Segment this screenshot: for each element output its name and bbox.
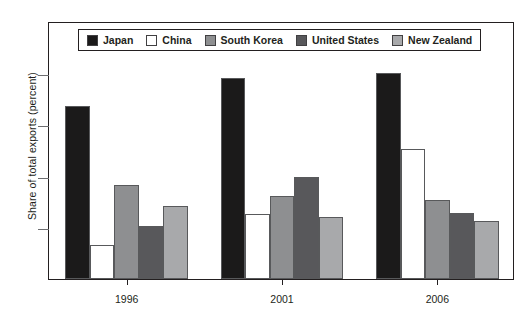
y-axis-tick [38,178,49,179]
legend-item: United States [296,34,379,46]
legend-label: New Zealand [408,34,472,46]
bar [294,177,319,279]
legend-item: China [146,34,191,46]
y-axis-tick [38,229,49,230]
legend-swatch-icon [205,35,216,46]
plot-inner: 0510152025199620012006 [49,23,513,279]
legend-swatch-icon [392,35,403,46]
y-axis-tick [38,75,49,76]
bar [90,245,115,279]
bar [270,196,295,279]
x-axis-tick-label: 1996 [115,293,138,305]
legend-swatch-icon [296,35,307,46]
bar [376,73,401,279]
bar [139,226,164,279]
x-axis-tick-label: 2001 [270,293,293,305]
legend-label: United States [312,34,379,46]
legend-label: South Korea [221,34,283,46]
bar [65,106,90,279]
legend-swatch-icon [87,35,98,46]
bar [450,213,475,279]
legend-swatch-icon [146,35,157,46]
y-axis-tick [38,126,49,127]
legend-label: China [162,34,191,46]
y-axis-title: Share of total exports (percent) [26,36,38,256]
x-axis-tick [282,279,283,285]
legend-label: Japan [103,34,133,46]
bar [114,185,139,279]
plot-area: 0510152025199620012006 [48,22,514,280]
bar [425,200,450,279]
chart-figure: Share of total exports (percent) 0510152… [0,0,527,319]
bar [474,221,499,279]
x-axis-tick [437,279,438,285]
legend-item: New Zealand [392,34,472,46]
legend-item: South Korea [205,34,283,46]
x-axis-tick-label: 2006 [426,293,449,305]
legend-item: Japan [87,34,133,46]
bar [319,217,344,279]
x-axis-tick [127,279,128,285]
bar [221,78,246,279]
bar [163,206,188,279]
bar [245,214,270,279]
chart-legend: JapanChinaSouth KoreaUnited StatesNew Ze… [78,29,481,51]
bar [401,149,426,279]
